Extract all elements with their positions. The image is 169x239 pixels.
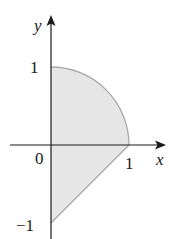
region-diagram — [0, 0, 169, 239]
origin-label: 0 — [35, 150, 44, 167]
y-tick-one-label: 1 — [30, 59, 39, 76]
x-tick-one-label: 1 — [125, 155, 134, 172]
y-axis-label: y — [34, 17, 42, 34]
y-tick-neg-one-label: −1 — [16, 217, 34, 234]
x-axis-label: x — [156, 151, 164, 168]
